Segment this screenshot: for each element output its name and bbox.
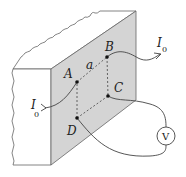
- label-a: A: [63, 67, 73, 81]
- voltmeter-label: V: [161, 131, 170, 142]
- label-b: B: [104, 40, 114, 54]
- point-a: [75, 80, 79, 84]
- point-c: [106, 94, 110, 98]
- label-c: C: [114, 81, 123, 95]
- label-d: D: [66, 124, 77, 138]
- label-side-a: a: [86, 58, 93, 72]
- label-current-out-sub: 0: [162, 45, 167, 54]
- point-b: [105, 55, 109, 59]
- point-d: [75, 116, 79, 120]
- physics-diagram: A B C D a I 0 I 0 V: [0, 0, 186, 177]
- slab-side-face: [12, 69, 51, 165]
- label-current-in-sub: 0: [34, 110, 39, 119]
